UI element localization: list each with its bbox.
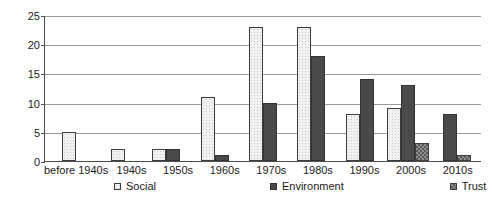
legend-label: Trust	[462, 180, 487, 192]
bar-social-1[interactable]	[111, 149, 125, 161]
chart-legend: SocialEnvironmentTrust	[44, 180, 481, 192]
bar-group	[384, 16, 432, 161]
bar-group	[287, 16, 335, 161]
y-tick-label: 10	[28, 98, 40, 109]
x-tick-label: 1980s	[295, 164, 342, 176]
y-tick-label: 15	[28, 69, 40, 80]
y-tick-label: 0	[34, 157, 40, 168]
bar-environment-7[interactable]	[401, 85, 415, 161]
bar-environment-4[interactable]	[263, 103, 277, 161]
y-tick-label: 5	[34, 127, 40, 138]
bar-social-2[interactable]	[152, 149, 166, 161]
bar-group	[190, 16, 238, 161]
bar-social-0[interactable]	[62, 132, 76, 161]
bar-social-7[interactable]	[387, 108, 401, 161]
bar-group	[45, 16, 93, 161]
bar-social-3[interactable]	[201, 97, 215, 161]
bar-trust-7[interactable]	[415, 143, 429, 161]
x-tick-label: 1950s	[155, 164, 202, 176]
bar-group	[239, 16, 287, 161]
legend-item-social[interactable]: Social	[114, 180, 156, 192]
legend-item-environment[interactable]: Environment	[270, 180, 344, 192]
x-tick-label: 1960s	[201, 164, 248, 176]
y-tick-label: 25	[28, 11, 40, 22]
legend-item-trust[interactable]: Trust	[450, 180, 487, 192]
legend-swatch-icon	[450, 183, 457, 190]
y-tick-label: 20	[28, 40, 40, 51]
bar-environment-8[interactable]	[443, 114, 457, 161]
x-tick-label: before 1940s	[44, 164, 108, 176]
x-tick-label: 1970s	[248, 164, 295, 176]
legend-label: Environment	[282, 180, 344, 192]
bar-social-5[interactable]	[297, 27, 311, 161]
bar-group	[433, 16, 481, 161]
bar-chart: 0510152025 before 1940s1940s1950s1960s19…	[0, 0, 493, 198]
x-axis-labels: before 1940s1940s1950s1960s1970s1980s199…	[44, 164, 481, 176]
bar-environment-3[interactable]	[215, 155, 229, 161]
bar-social-6[interactable]	[346, 114, 360, 161]
bar-group	[336, 16, 384, 161]
bar-environment-6[interactable]	[360, 79, 374, 161]
y-tick-mark	[41, 162, 45, 163]
x-tick-label: 2000s	[388, 164, 435, 176]
bars-layer	[45, 16, 481, 161]
x-tick-label: 1940s	[108, 164, 155, 176]
bar-group	[93, 16, 141, 161]
legend-swatch-icon	[114, 183, 121, 190]
plot-area: 0510152025	[44, 16, 481, 162]
bar-social-4[interactable]	[249, 27, 263, 161]
legend-label: Social	[126, 180, 156, 192]
bar-trust-8[interactable]	[457, 155, 471, 161]
x-tick-label: 1990s	[341, 164, 388, 176]
bar-group	[142, 16, 190, 161]
legend-swatch-icon	[270, 183, 277, 190]
bar-environment-5[interactable]	[311, 56, 325, 161]
bar-environment-2[interactable]	[166, 149, 180, 161]
x-tick-label: 2010s	[434, 164, 481, 176]
